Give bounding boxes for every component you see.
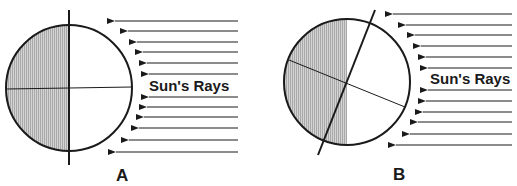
- night-side-b: [280, 15, 347, 155]
- panel-label-b: B: [393, 165, 405, 184]
- sun-rays-label-b: Sun's Rays: [430, 70, 510, 87]
- earth-sunlight-diagram: Sun's Rays A Sun's Rays B: [0, 0, 517, 186]
- panel-b: Sun's Rays B: [280, 10, 512, 184]
- earth-b: [280, 10, 410, 155]
- panel-label-a: A: [116, 166, 128, 185]
- earth-a: [0, 10, 132, 165]
- panel-a: Sun's Rays A: [0, 10, 238, 185]
- sun-rays-label-a: Sun's Rays: [149, 77, 229, 94]
- night-side-a: [0, 20, 69, 160]
